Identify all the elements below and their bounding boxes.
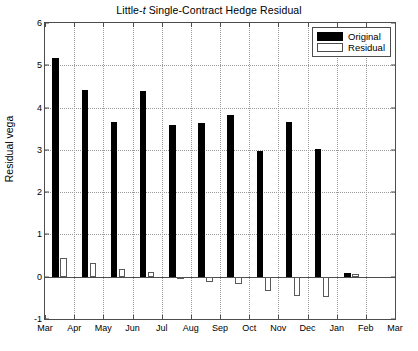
bar-residual-jul [148, 272, 155, 277]
bar-residual-feb [352, 274, 359, 277]
y-tick-label: 4 [37, 103, 42, 113]
bar-residual-aug [177, 277, 184, 279]
x-tick-mark-top [103, 23, 104, 27]
x-tick-mark-top [308, 23, 309, 27]
bar-original-may [82, 90, 89, 276]
x-tick-label: Nov [270, 323, 286, 333]
x-tick-label: May [95, 323, 112, 333]
x-tick-mark [103, 315, 104, 319]
x-tick-label: Dec [299, 323, 315, 333]
x-tick-mark [337, 315, 338, 319]
y-tick-label: 5 [37, 60, 42, 70]
x-tick-mark-top [74, 23, 75, 27]
bar-original-oct [227, 115, 234, 277]
y-tick-mark [45, 107, 49, 108]
y-gridline [45, 192, 395, 193]
bar-residual-nov [265, 277, 272, 291]
x-tick-mark [308, 315, 309, 319]
bar-original-jun [111, 122, 118, 277]
y-tick-mark [45, 234, 49, 235]
x-tick-mark-top [133, 23, 134, 27]
legend-item-residual: Residual [317, 42, 385, 53]
y-tick-mark-right [391, 276, 395, 277]
plot-inner [45, 23, 395, 319]
chart-title-prefix: Little- [116, 4, 142, 16]
chart-title: Little-t Single-Contract Hedge Residual [0, 4, 418, 16]
x-tick-mark-top [191, 23, 192, 27]
zero-baseline [45, 277, 395, 278]
y-tick-mark [45, 149, 49, 150]
chart-title-suffix: Single-Contract Hedge Residual [146, 4, 302, 16]
bar-residual-apr [60, 258, 67, 277]
y-tick-mark [45, 276, 49, 277]
bar-residual-oct [235, 277, 242, 285]
x-gridline [337, 23, 338, 319]
bar-residual-sep [206, 277, 213, 282]
x-tick-label: Aug [183, 323, 199, 333]
y-axis-label-text: Residual vega [3, 116, 15, 183]
plot-area: Original Residual -10123456MarAprMayJunJ… [44, 22, 396, 320]
y-tick-mark-right [391, 192, 395, 193]
bar-residual-may [90, 263, 97, 277]
y-tick-label: 0 [37, 272, 42, 282]
x-gridline [249, 23, 250, 319]
bar-original-dec [286, 122, 293, 276]
x-tick-label: Jul [156, 323, 168, 333]
bar-residual-dec [294, 277, 301, 296]
y-tick-mark [45, 192, 49, 193]
y-tick-mark-right [391, 234, 395, 235]
x-gridline [308, 23, 309, 319]
x-gridline [162, 23, 163, 319]
x-tick-mark [278, 315, 279, 319]
x-tick-label: Sep [212, 323, 228, 333]
x-tick-mark [45, 315, 46, 319]
x-tick-mark-top [220, 23, 221, 27]
legend-swatch-original-icon [317, 32, 343, 41]
x-tick-label: Feb [358, 323, 374, 333]
y-gridline [45, 65, 395, 66]
x-tick-label: Jun [125, 323, 140, 333]
legend: Original Residual [312, 27, 391, 57]
x-tick-mark-top [162, 23, 163, 27]
x-tick-label: Mar [387, 323, 403, 333]
x-gridline [133, 23, 134, 319]
legend-label-original: Original [348, 31, 381, 42]
bar-original-feb [344, 273, 351, 276]
x-tick-mark [395, 315, 396, 319]
bar-original-jul [140, 91, 147, 277]
y-tick-mark [45, 65, 49, 66]
x-tick-label: Mar [37, 323, 53, 333]
bar-original-sep [198, 123, 205, 276]
x-tick-mark-top [249, 23, 250, 27]
y-gridline [45, 234, 395, 235]
x-gridline [74, 23, 75, 319]
x-tick-mark-top [278, 23, 279, 27]
bar-residual-jan [323, 277, 330, 297]
bar-original-aug [169, 125, 176, 277]
bar-residual-jun [119, 269, 126, 277]
x-gridline [103, 23, 104, 319]
x-tick-mark-top [45, 23, 46, 27]
x-tick-mark-top [337, 23, 338, 27]
x-gridline [220, 23, 221, 319]
y-tick-label: 3 [37, 145, 42, 155]
bar-original-nov [257, 151, 264, 277]
x-tick-mark [191, 315, 192, 319]
x-gridline [366, 23, 367, 319]
legend-item-original: Original [317, 31, 385, 42]
x-tick-label: Jan [329, 323, 344, 333]
x-tick-mark [220, 315, 221, 319]
figure: Little-t Single-Contract Hedge Residual … [0, 0, 418, 351]
x-tick-mark-top [395, 23, 396, 27]
y-tick-label: 2 [37, 187, 42, 197]
bar-original-apr [52, 58, 59, 277]
y-tick-mark-right [391, 107, 395, 108]
y-axis-label: Residual vega [2, 0, 16, 298]
y-gridline [45, 150, 395, 151]
legend-label-residual: Residual [348, 42, 385, 53]
x-gridline [191, 23, 192, 319]
x-tick-mark [162, 315, 163, 319]
x-tick-mark-top [366, 23, 367, 27]
y-tick-label: 6 [37, 18, 42, 28]
y-gridline [45, 108, 395, 109]
